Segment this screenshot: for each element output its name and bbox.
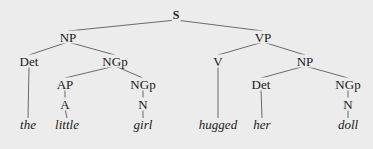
node-ngp-inner: NGp	[129, 78, 156, 91]
word-girl: girl	[133, 118, 154, 131]
node-n-object: N	[342, 98, 353, 111]
node-v: V	[212, 55, 223, 68]
edge-det1-w_the	[28, 66, 29, 118]
word-little: little	[54, 118, 80, 131]
node-n-subject: N	[137, 98, 148, 111]
node-vp: VP	[254, 31, 273, 44]
node-s: S	[172, 9, 181, 21]
node-ap: AP	[56, 78, 75, 91]
edge-det2-w_her	[261, 89, 262, 118]
word-the: the	[19, 118, 37, 131]
node-np-subject: NP	[59, 31, 78, 44]
word-hugged: hugged	[198, 118, 238, 131]
word-her: her	[252, 118, 271, 131]
node-np-object: NP	[296, 55, 315, 68]
node-a: A	[59, 98, 70, 111]
edge-s-vp	[176, 20, 263, 31]
word-doll: doll	[337, 118, 359, 131]
node-ngp-subject: NGp	[101, 55, 128, 68]
node-ngp-object: NGp	[334, 78, 361, 91]
node-det-subject: Det	[19, 55, 40, 68]
syntax-tree: S NP VP Det NGp V NP AP NGp Det NGp A N …	[0, 0, 373, 149]
node-det-object: Det	[251, 78, 272, 91]
edge-s-np1	[68, 20, 176, 31]
